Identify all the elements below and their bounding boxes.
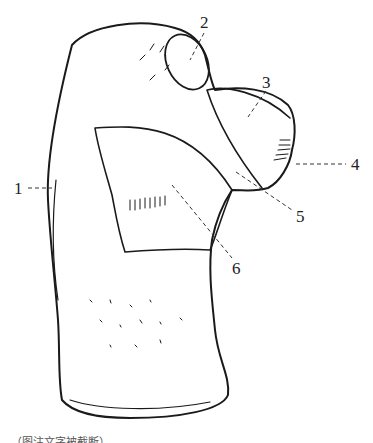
facet-2 [157,27,218,96]
label-6: 6 [232,260,241,277]
label-5: 5 [296,208,305,225]
label-4: 4 [351,156,360,173]
bone-illustration [0,0,373,443]
figure-caption-truncated: …（图注文字被截断）… [0,433,373,443]
label-3: 3 [262,74,271,91]
label-1: 1 [14,180,23,197]
bone-outline [48,23,295,418]
label-2: 2 [200,14,209,31]
facet-6 [95,127,232,252]
leader-6 [172,185,232,258]
